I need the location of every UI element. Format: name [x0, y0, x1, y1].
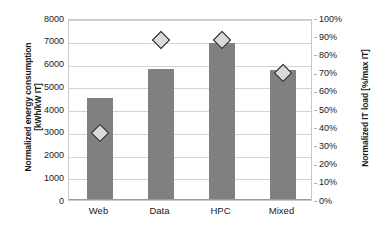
y-axis-right-tick-label: 90%	[314, 32, 357, 43]
x-axis-category-labels: WebDataHPCMixed	[68, 205, 312, 221]
x-axis-category-label: Data	[149, 205, 169, 216]
y-axis-right-ticks: 0%10%20%30%40%50%60%70%80%90%100%	[314, 0, 354, 233]
y-axis-right-tickmark	[314, 201, 317, 202]
bar	[209, 43, 235, 200]
y-axis-right-tick-label: 60%	[314, 86, 357, 97]
y-axis-right-tick-label: 70%	[314, 68, 357, 79]
x-axis-category-label: Web	[89, 205, 108, 216]
gridline	[69, 20, 311, 21]
y-axis-right-title: Normalized IT load [%/max IT]	[360, 31, 370, 186]
y-axis-right-tickmark	[314, 37, 317, 38]
y-axis-right-tickmark	[314, 128, 317, 129]
y-axis-left-tick-label: 3000	[26, 127, 64, 138]
y-axis-right-tickmark	[314, 183, 317, 184]
gridline	[69, 66, 311, 67]
y-axis-right-tick-label: 0%	[314, 196, 357, 207]
y-axis-right-tick-label: 10%	[314, 177, 357, 188]
y-axis-left-tick-label: 0	[26, 196, 64, 207]
y-axis-right-tick-label: 40%	[314, 123, 357, 134]
y-axis-right-tick-label: 20%	[314, 159, 357, 170]
y-axis-left-tick-label: 1000	[26, 173, 64, 184]
gridline	[69, 43, 311, 44]
chart-container: Normalized energy consumption [kWh/kW IT…	[0, 0, 378, 233]
y-axis-left-tick-label: 5000	[26, 82, 64, 93]
y-axis-right-tickmark	[314, 92, 317, 93]
plot-area	[68, 19, 312, 201]
bar	[270, 70, 296, 200]
y-axis-right-tick-label: 30%	[314, 141, 357, 152]
y-axis-left-tick-label: 2000	[26, 150, 64, 161]
y-axis-left-tick-label: 6000	[26, 59, 64, 70]
y-axis-right-tickmark	[314, 55, 317, 56]
y-axis-left-ticks: 010002000300040005000600070008000	[24, 0, 64, 233]
diamond-marker	[151, 31, 169, 49]
bar	[148, 69, 174, 200]
y-axis-left-tick-label: 4000	[26, 105, 64, 116]
x-axis-category-label: Mixed	[269, 205, 294, 216]
y-axis-right-tick-label: 80%	[314, 50, 357, 61]
x-axis-line	[69, 199, 311, 200]
y-axis-right-tickmark	[314, 110, 317, 111]
y-axis-right-tickmark	[314, 165, 317, 166]
y-axis-right-tickmark	[314, 19, 317, 20]
y-axis-right-tickmark	[314, 146, 317, 147]
y-axis-right-tickmark	[314, 74, 317, 75]
x-axis-category-label: HPC	[210, 205, 230, 216]
bar	[87, 98, 113, 200]
y-axis-right-tick-label: 100%	[314, 14, 357, 25]
y-axis-left-tick-label: 8000	[26, 14, 64, 25]
y-axis-left-tick-label: 7000	[26, 36, 64, 47]
y-axis-right-tick-label: 50%	[314, 105, 357, 116]
